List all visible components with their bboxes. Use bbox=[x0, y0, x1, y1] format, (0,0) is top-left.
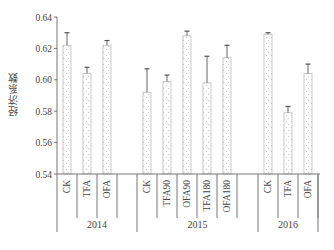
year-label: 2016 bbox=[278, 219, 298, 230]
bar bbox=[183, 36, 191, 174]
bar bbox=[284, 113, 292, 174]
y-axis: 0.540.560.580.600.620.64 bbox=[35, 13, 57, 180]
x-category-label: CK bbox=[62, 180, 72, 193]
y-tick-label: 0.60 bbox=[35, 75, 52, 85]
x-category-label: TFA180 bbox=[202, 180, 212, 212]
bar bbox=[83, 74, 91, 174]
x-category-label: TFA90 bbox=[162, 180, 172, 207]
x-category-label: OFA90 bbox=[182, 180, 192, 208]
bar bbox=[264, 34, 272, 174]
y-tick-label: 0.64 bbox=[35, 13, 52, 23]
x-category-label: CK bbox=[263, 180, 273, 193]
year-label: 2014 bbox=[87, 219, 107, 230]
year-label: 2015 bbox=[188, 219, 208, 230]
bar bbox=[163, 81, 171, 174]
x-category-label: OFA180 bbox=[222, 180, 232, 213]
y-tick-label: 0.54 bbox=[35, 170, 52, 180]
y-tick-label: 0.58 bbox=[35, 107, 52, 117]
y-tick-label: 0.56 bbox=[35, 138, 52, 148]
bar bbox=[203, 83, 211, 174]
y-tick-label: 0.62 bbox=[35, 44, 52, 54]
x-category-label: OFA bbox=[102, 180, 112, 198]
x-category-label: TFA bbox=[82, 180, 92, 197]
y-axis-label: 经济系数 bbox=[6, 72, 20, 116]
bars bbox=[63, 31, 312, 174]
bar bbox=[63, 45, 71, 174]
bar-chart: 0.540.560.580.600.620.64 CKTFAOFA2014CKT… bbox=[0, 0, 334, 250]
x-axis: CKTFAOFA2014CKTFA90OFA90TFA180OFA1802015… bbox=[57, 174, 320, 232]
bar bbox=[304, 74, 312, 174]
bar bbox=[143, 92, 151, 174]
bar bbox=[223, 58, 231, 174]
x-category-label: TFA bbox=[283, 180, 293, 197]
x-category-label: CK bbox=[142, 180, 152, 193]
x-category-label: OFA bbox=[303, 180, 313, 198]
bar bbox=[103, 45, 111, 174]
